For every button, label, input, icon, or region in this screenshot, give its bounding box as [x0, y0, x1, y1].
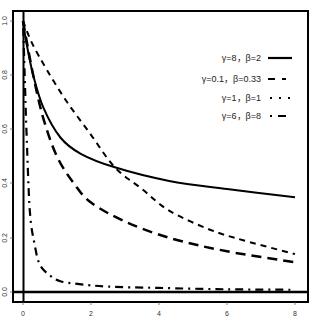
legend-label: γ=1，β=1 — [222, 93, 261, 103]
x-tick-label: 2 — [89, 310, 93, 317]
x-tick-label: 6 — [225, 310, 229, 317]
legend-label: γ=8，β=2 — [222, 53, 261, 63]
series-line-gamma8-beta2 — [23, 21, 295, 197]
y-tick-label: 0.6 — [1, 124, 8, 134]
y-tick-label: 1.0 — [1, 16, 8, 26]
y-tick-label: 0.0 — [1, 287, 8, 297]
x-tick-label: 8 — [293, 310, 297, 317]
y-axis: 0.0 0.2 0.4 0.6 0.8 1.0 — [1, 16, 13, 297]
legend-label: γ=0.1，β=0.33 — [202, 74, 261, 84]
x-axis: 0 2 4 6 8 — [21, 302, 297, 317]
y-tick-label: 0.8 — [1, 70, 8, 80]
survival-curves-chart: 0.0 0.2 0.4 0.6 0.8 1.0 0 2 4 6 8 γ=8，β=… — [0, 0, 312, 323]
x-tick-label: 4 — [157, 310, 161, 317]
plot-frame — [13, 11, 308, 302]
legend-label: γ=6，β=8 — [222, 111, 261, 121]
y-tick-label: 0.4 — [1, 178, 8, 188]
x-tick-label: 0 — [21, 310, 25, 317]
legend: γ=8，β=2 γ=0.1，β=0.33 γ=1，β=1 γ=6，β=8 — [202, 53, 292, 121]
y-tick-label: 0.2 — [1, 233, 8, 243]
